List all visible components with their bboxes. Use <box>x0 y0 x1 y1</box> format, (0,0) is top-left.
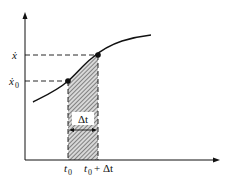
y-label-x-dot-0: ẋ 0 <box>8 75 19 90</box>
interval-label: Δt <box>78 113 88 125</box>
x-label-t0: t 0 <box>64 162 72 177</box>
x-axis-arrow-icon <box>213 158 220 163</box>
end-point <box>95 52 101 58</box>
diagram-canvas: Δt ẋ ẋ 0 t 0 t 0 + Δt <box>0 0 228 179</box>
svg-text:0: 0 <box>15 81 19 90</box>
svg-text:ẋ: ẋ <box>8 75 14 87</box>
svg-text:Δt: Δt <box>103 162 113 174</box>
svg-text:0: 0 <box>68 168 72 177</box>
y-axis-arrow-icon <box>23 12 28 19</box>
shaded-area <box>60 40 110 165</box>
svg-text:ẋ: ẋ <box>11 49 17 61</box>
start-point <box>65 78 71 84</box>
y-label-x-dot: ẋ <box>11 49 17 61</box>
x-label-t0-plus-delta: t 0 + Δt <box>84 162 113 177</box>
x-axis <box>25 158 220 163</box>
svg-text:+: + <box>94 162 100 174</box>
svg-text:0: 0 <box>88 168 92 177</box>
y-axis <box>23 12 28 160</box>
